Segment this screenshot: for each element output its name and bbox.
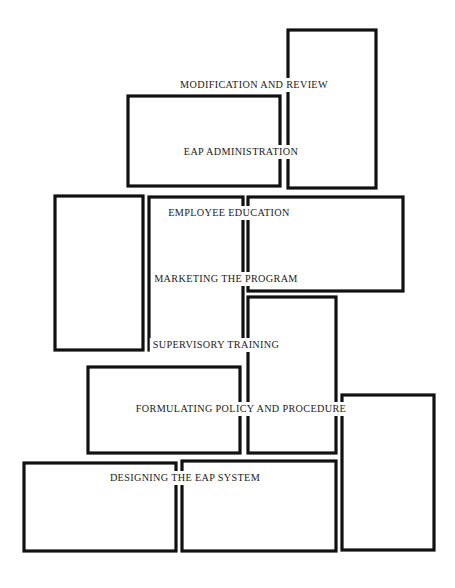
stage-label-marketing-the-program: MARKETING THE PROGRAM (151, 272, 301, 286)
stage-label-modification-and-review: MODIFICATION AND REVIEW (177, 78, 331, 92)
stage-label-formulating-policy-and-procedure: FORMULATING POLICY AND PROCEDURE (133, 402, 349, 416)
stage-label-employee-education: EMPLOYEE EDUCATION (165, 206, 292, 220)
stage-label-eap-administration: EAP ADMINISTRATION (181, 145, 301, 159)
stage-label-supervisory-training: SUPERVISORY TRAINING (150, 338, 282, 352)
stage-label-designing-the-eap-system: DESIGNING THE EAP SYSTEM (107, 471, 263, 485)
diagram-canvas: MODIFICATION AND REVIEW EAP ADMINISTRATI… (0, 0, 455, 588)
